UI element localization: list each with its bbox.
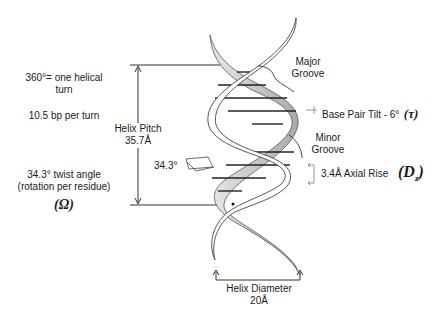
twist-angle-small-label: 34.3° bbox=[154, 160, 177, 172]
twist-angle-note: 34.3° twist angle (rotation per residue) bbox=[14, 169, 114, 193]
diameter-arrow-icons bbox=[213, 270, 303, 275]
base-pair-tilt-label: Base Pair Tilt - 6° (τ) bbox=[322, 104, 418, 122]
front-strand bbox=[208, 18, 296, 260]
axial-rise-label: 3.4Å Axial Rise bbox=[321, 168, 388, 180]
minor-groove-label: Minor Groove bbox=[306, 132, 350, 156]
bp-per-turn-note: 10.5 bp per turn bbox=[22, 110, 106, 122]
diameter-bracket bbox=[216, 272, 300, 280]
major-groove-label: Major Groove bbox=[286, 56, 330, 80]
axial-rise-symbol: (Dz) bbox=[398, 163, 424, 183]
axis-dot bbox=[232, 203, 235, 206]
axial-rise-bracket bbox=[308, 165, 314, 183]
twist-plate-top bbox=[186, 157, 213, 169]
helix-diameter-label: Helix Diameter 20Å bbox=[222, 283, 296, 307]
helix-pitch-label: Helix Pitch 35.7Å bbox=[110, 123, 166, 147]
omega-symbol: (Ω) bbox=[44, 199, 84, 211]
dna-helix-drawing bbox=[0, 0, 439, 309]
tilt-icon bbox=[306, 106, 317, 114]
one-turn-note: 360°= one helical turn bbox=[22, 72, 106, 96]
